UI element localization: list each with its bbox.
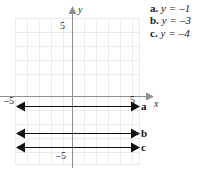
line-label-b: b <box>141 127 147 139</box>
y-axis-label: y <box>78 4 82 15</box>
legend-key-c: c. <box>150 27 158 39</box>
x-axis-label: x <box>154 98 158 109</box>
x-axis-tick-minus5: –5 <box>4 95 14 106</box>
legend-key-a: a. <box>150 2 158 14</box>
line-label-c: c <box>141 141 146 153</box>
legend-equation-b: y = –3 <box>162 14 191 26</box>
y-axis-tick-5: 5 <box>60 20 65 31</box>
x-axis-tick-5: 5 <box>130 94 135 105</box>
legend: a. y = –1 b. y = –3 c. y = –4 <box>150 2 201 39</box>
legend-equation-c: y = –4 <box>160 27 189 39</box>
grid-vertical-lines <box>16 18 140 165</box>
line-label-a: a <box>141 100 147 112</box>
legend-equation-a: y = –1 <box>161 2 190 14</box>
legend-item-b: b. y = –3 <box>150 14 201 26</box>
legend-key-b: b. <box>150 14 159 26</box>
graph-figure: –5 5 x 5 –5 y a b c a. y = –1 b. y = –3 … <box>0 0 201 179</box>
y-axis-tick-minus5: –5 <box>56 150 66 161</box>
legend-item-c: c. y = –4 <box>150 27 201 39</box>
grid-horizontal-lines <box>15 19 140 165</box>
legend-item-a: a. y = –1 <box>150 2 201 14</box>
line-c <box>16 143 140 153</box>
y-axis <box>69 6 77 168</box>
line-b <box>16 129 140 139</box>
